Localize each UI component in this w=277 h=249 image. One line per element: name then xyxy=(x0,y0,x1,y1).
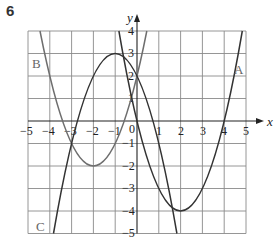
svg-text:5: 5 xyxy=(243,124,249,138)
svg-text:0: 0 xyxy=(129,122,135,136)
svg-text:−4: −4 xyxy=(42,124,55,138)
svg-text:3: 3 xyxy=(200,124,206,138)
y-axis-label: y xyxy=(125,10,133,25)
svg-text:3: 3 xyxy=(128,46,134,60)
curve-label-b: B xyxy=(32,56,41,71)
svg-text:−2: −2 xyxy=(86,124,99,138)
svg-text:−4: −4 xyxy=(122,204,135,218)
svg-text:−5: −5 xyxy=(20,124,33,138)
curve-label-a: A xyxy=(234,62,244,77)
svg-text:−2: −2 xyxy=(122,159,135,173)
x-axis-label: x xyxy=(266,114,273,129)
y-axis-arrow-icon xyxy=(134,14,140,22)
svg-text:4: 4 xyxy=(128,24,134,38)
svg-text:−5: −5 xyxy=(122,226,135,240)
x-axis-arrow-icon xyxy=(256,118,264,124)
graph: x y −5 −4 −3 −2 −1 0 1 2 3 4 5 4 3 2 1 −… xyxy=(0,0,277,249)
curve-label-c: C xyxy=(36,219,45,234)
svg-text:2: 2 xyxy=(178,124,184,138)
svg-text:−1: −1 xyxy=(122,136,135,150)
svg-text:−3: −3 xyxy=(122,181,135,195)
